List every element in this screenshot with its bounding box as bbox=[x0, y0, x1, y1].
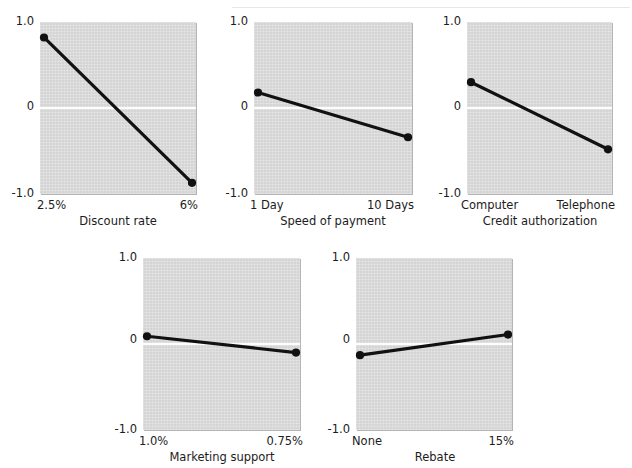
ytick-top: 1.0 bbox=[0, 16, 34, 28]
ytick-bottom: -1.0 bbox=[427, 188, 461, 200]
xtick-right: 15% bbox=[452, 436, 514, 448]
ytick-bottom: -1.0 bbox=[316, 424, 350, 436]
ytick-mid: 0 bbox=[214, 101, 248, 113]
xtick-left: 2.5% bbox=[37, 200, 97, 212]
series-line bbox=[360, 335, 508, 356]
xtick-right: Telephone bbox=[529, 200, 615, 212]
ytick-bottom: -1.0 bbox=[214, 188, 248, 200]
series-speed-of-payment bbox=[254, 22, 412, 194]
main-effects-figure: 1.0 0 -1.0 2.5% 6% Discount rate 1.0 0 -… bbox=[0, 0, 632, 468]
series-credit-authorization bbox=[467, 22, 612, 194]
ytick-mid: 0 bbox=[427, 101, 461, 113]
data-point bbox=[143, 332, 151, 340]
data-point bbox=[467, 78, 475, 86]
xtick-right: 0.75% bbox=[225, 436, 303, 448]
series-line bbox=[258, 93, 408, 138]
panel-rebate: 1.0 0 -1.0 None 15% Rebate bbox=[356, 258, 512, 430]
panel-credit-authorization: 1.0 0 -1.0 Computer Telephone Credit aut… bbox=[467, 22, 612, 194]
data-point bbox=[188, 179, 196, 187]
scan-artifact-rule bbox=[232, 7, 630, 8]
xtick-left: 1.0% bbox=[139, 436, 199, 448]
axis-title-speed-of-payment: Speed of payment bbox=[238, 216, 428, 228]
series-rebate bbox=[356, 258, 512, 430]
series-discount-rate bbox=[40, 22, 196, 194]
data-point bbox=[292, 349, 300, 357]
data-point bbox=[254, 88, 262, 96]
axis-title-discount-rate: Discount rate bbox=[28, 216, 208, 228]
series-line bbox=[44, 37, 192, 182]
xtick-right: 6% bbox=[136, 200, 198, 212]
data-point bbox=[356, 351, 364, 359]
panel-speed-of-payment: 1.0 0 -1.0 1 Day 10 Days Speed of paymen… bbox=[254, 22, 412, 194]
ytick-bottom: -1.0 bbox=[0, 188, 34, 200]
axis-title-rebate: Rebate bbox=[340, 452, 530, 464]
axis-title-marketing-support: Marketing support bbox=[127, 452, 317, 464]
series-line bbox=[147, 336, 296, 352]
ytick-mid: 0 bbox=[316, 334, 350, 346]
data-point bbox=[504, 330, 512, 338]
series-line bbox=[471, 82, 608, 149]
axis-title-credit-authorization: Credit authorization bbox=[447, 216, 632, 228]
data-point bbox=[40, 33, 48, 41]
xtick-left: 1 Day bbox=[250, 200, 310, 212]
ytick-top: 1.0 bbox=[103, 252, 137, 264]
series-marketing-support bbox=[143, 258, 300, 430]
data-point bbox=[604, 145, 612, 153]
panel-marketing-support: 1.0 0 -1.0 1.0% 0.75% Marketing support bbox=[143, 258, 300, 430]
ytick-top: 1.0 bbox=[214, 16, 248, 28]
ytick-top: 1.0 bbox=[427, 16, 461, 28]
ytick-mid: 0 bbox=[0, 101, 34, 113]
data-point bbox=[404, 133, 412, 141]
xtick-right: 10 Days bbox=[340, 200, 414, 212]
xtick-left: None bbox=[352, 436, 412, 448]
ytick-bottom: -1.0 bbox=[103, 424, 137, 436]
xtick-left: Computer bbox=[461, 200, 533, 212]
scan-artifact bbox=[232, 0, 630, 9]
panel-discount-rate: 1.0 0 -1.0 2.5% 6% Discount rate bbox=[40, 22, 196, 194]
ytick-top: 1.0 bbox=[316, 252, 350, 264]
ytick-mid: 0 bbox=[103, 334, 137, 346]
